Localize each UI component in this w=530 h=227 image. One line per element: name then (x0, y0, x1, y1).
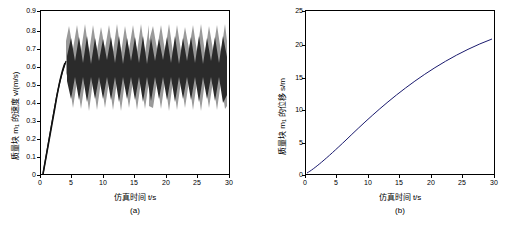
xtickmark-b-1 (336, 175, 337, 178)
ytick-a-6: 0.6 (10, 63, 36, 71)
ytickmark-b-2 (302, 110, 305, 111)
ytickmark-a-1 (37, 157, 40, 158)
xtick-b-5: 25 (453, 179, 471, 187)
ytickmark-a-7 (37, 49, 40, 50)
ytickmark-a-5 (37, 85, 40, 86)
xtickmark-a-1 (71, 175, 72, 178)
ytickmark-b-3 (302, 78, 305, 79)
ytick-a-9: 0.9 (10, 7, 36, 15)
xtickmark-a-2 (103, 175, 104, 178)
ytick-b-4: 20 (277, 41, 303, 49)
xtickmark-a-5 (197, 175, 198, 178)
xtickmark-a-6 (229, 175, 230, 178)
panel-b: 0 5 10 15 20 25 0 5 10 15 20 25 30 仿真时间 … (265, 0, 530, 227)
ytickmark-a-2 (37, 139, 40, 140)
plot-area-b (305, 10, 495, 175)
ytickmark-a-8 (37, 31, 40, 32)
xtickmark-b-2 (368, 175, 369, 178)
xtick-b-2: 10 (359, 179, 377, 187)
xtickmark-a-4 (166, 175, 167, 178)
ytickmark-b-5 (302, 11, 305, 12)
xaxis-title-b: 仿真时间 t/s (340, 191, 460, 202)
xtick-a-4: 20 (157, 179, 175, 187)
plot-area-a (40, 10, 230, 175)
xaxis-title-a: 仿真时间 t/s (75, 191, 195, 202)
xtick-a-6: 30 (220, 179, 238, 187)
ytickmark-a-3 (37, 121, 40, 122)
ytickmark-b-1 (302, 143, 305, 144)
ytick-a-0: 0 (10, 171, 36, 179)
panel-caption-b: (b) (360, 206, 440, 215)
chart-b-canvas (306, 11, 494, 174)
xtickmark-b-6 (494, 175, 495, 178)
xtick-a-1: 5 (62, 179, 80, 187)
xtick-a-5: 25 (188, 179, 206, 187)
ytickmark-a-9 (37, 11, 40, 12)
chart-a-canvas (41, 11, 229, 174)
ytickmark-a-4 (37, 103, 40, 104)
ytickmark-a-6 (37, 67, 40, 68)
xtick-b-1: 5 (327, 179, 345, 187)
ytick-a-8: 0.8 (10, 27, 36, 35)
xtick-b-3: 15 (390, 179, 408, 187)
xtick-b-6: 30 (485, 179, 503, 187)
xtickmark-b-3 (399, 175, 400, 178)
xtick-b-0: 0 (296, 179, 314, 187)
xtickmark-b-0 (305, 175, 306, 178)
xtickmark-b-5 (462, 175, 463, 178)
panel-a: 0 0.1 0.2 0.3 0.4 0.5 0.6 0.7 0.8 0.9 0 … (0, 0, 265, 227)
xtickmark-a-0 (40, 175, 41, 178)
xtickmark-a-3 (134, 175, 135, 178)
xtick-a-2: 10 (94, 179, 112, 187)
xtickmark-b-4 (431, 175, 432, 178)
ytick-a-7: 0.7 (10, 45, 36, 53)
ytick-b-0: 0 (277, 171, 303, 179)
ytickmark-b-4 (302, 45, 305, 46)
ytick-b-5: 25 (277, 7, 303, 15)
velocity-startup-curve-2 (43, 61, 66, 174)
xtick-a-3: 15 (125, 179, 143, 187)
xtick-a-0: 0 (31, 179, 49, 187)
figure-container: 0 0.1 0.2 0.3 0.4 0.5 0.6 0.7 0.8 0.9 0 … (0, 0, 530, 227)
panel-caption-a: (a) (95, 206, 175, 215)
xtick-b-4: 20 (422, 179, 440, 187)
yaxis-title-b: 质量块 m₁ 的位移 s/m (276, 78, 287, 155)
yaxis-title-a: 质量块 m₁ 的速度 v/(m/s) (9, 72, 20, 160)
displacement-curve (307, 39, 492, 173)
